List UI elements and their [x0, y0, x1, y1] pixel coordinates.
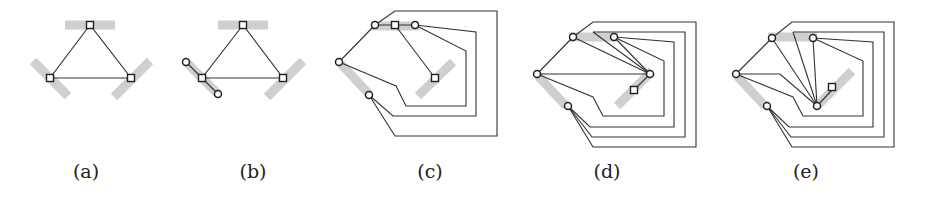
route-edge	[767, 38, 873, 127]
edge	[614, 37, 650, 74]
panel-e	[733, 22, 895, 147]
square-vertex	[128, 75, 135, 82]
circle-vertex	[611, 34, 618, 41]
square-vertex	[199, 75, 206, 82]
circle-vertex	[183, 59, 190, 66]
edge	[395, 25, 435, 78]
panel-b	[183, 22, 304, 98]
triangle-edges	[50, 25, 131, 78]
edge	[573, 37, 650, 74]
panel-label-e: (e)	[793, 160, 819, 182]
square-vertex	[280, 75, 287, 82]
panel-d	[534, 22, 697, 147]
circle-vertex	[810, 35, 817, 42]
circle-vertex	[570, 34, 577, 41]
circle-vertex	[814, 103, 821, 110]
square-vertex	[432, 75, 439, 82]
route-edge	[568, 37, 674, 127]
panel-label-b: (b)	[240, 160, 267, 182]
circle-vertex	[565, 103, 572, 110]
circle-vertex	[764, 103, 771, 110]
route-edge	[369, 25, 476, 116]
edge	[537, 37, 573, 74]
square-vertex	[47, 75, 54, 82]
edge	[593, 32, 650, 74]
triangle-edges	[202, 25, 283, 78]
circle-vertex	[372, 22, 379, 29]
panel-label-d: (d)	[594, 160, 621, 182]
square-vertex	[631, 87, 638, 94]
edge	[736, 38, 772, 74]
square-vertex	[87, 22, 94, 29]
circle-vertex	[647, 71, 654, 78]
panel-label-c: (c)	[417, 160, 442, 182]
circle-vertex	[534, 71, 541, 78]
circle-vertex	[733, 71, 740, 78]
circle-vertex	[215, 91, 222, 98]
edge	[339, 25, 375, 62]
route-edge	[767, 32, 884, 137]
route-edge	[568, 32, 685, 137]
circle-vertex	[336, 59, 343, 66]
square-vertex	[829, 84, 836, 91]
edge	[772, 38, 817, 106]
square-vertex	[392, 22, 399, 29]
square-vertex	[240, 22, 247, 29]
panel-a	[33, 22, 150, 98]
circle-vertex	[769, 35, 776, 42]
circle-vertex	[366, 92, 373, 99]
panel-c	[336, 11, 498, 136]
circle-vertex	[412, 22, 419, 29]
panel-label-a: (a)	[73, 160, 99, 182]
